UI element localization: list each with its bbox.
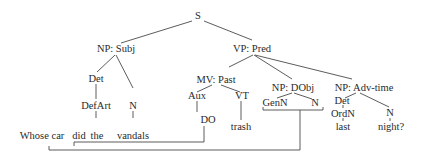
edge-vppred-npdobj (254, 55, 292, 79)
edge-npadvtime-n (360, 93, 389, 107)
word-whose-car: Whose car (20, 130, 65, 141)
syntax-tree-diagram: S NP: Subj VP: Pred Det DefArt N MV: Pas… (0, 0, 422, 156)
edge-vppred-npadvtime (255, 55, 352, 79)
node-n-adv: N (386, 107, 394, 118)
node-np-advtime: NP: Adv-time (335, 82, 394, 93)
node-genn: GenN (262, 97, 287, 108)
word-night: night? (378, 121, 405, 132)
node-do: DO (200, 114, 216, 125)
node-vt: VT (235, 90, 250, 101)
node-np-subj: NP: Subj (97, 43, 135, 54)
node-aux: Aux (188, 90, 207, 101)
word-last: last (336, 121, 351, 132)
node-det-adv: Det (334, 95, 349, 106)
node-defart: DefArt (81, 100, 111, 111)
edge-s-npsubj (121, 21, 192, 43)
node-vp-pred: VP: Pred (233, 43, 272, 54)
node-n-subj: N (129, 100, 137, 111)
edge-vppred-mvpast (229, 55, 253, 67)
node-labels: S NP: Subj VP: Pred Det DefArt N MV: Pas… (81, 10, 394, 125)
edge-npdobj-n (294, 93, 312, 99)
node-np-dobj: NP: DObj (272, 82, 314, 93)
edge-s-vppred (204, 21, 252, 40)
node-s: S (195, 10, 201, 21)
node-n-dobj: N (311, 97, 319, 108)
word-the: the (91, 130, 104, 141)
node-ordn: OrdN (331, 108, 355, 119)
tree-edges (96, 21, 390, 121)
movement-brackets (49, 107, 323, 150)
edge-npsubj-n (116, 55, 133, 88)
word-vandals: vandals (117, 130, 149, 141)
word-did: did (72, 130, 86, 141)
node-det-subj: Det (88, 73, 103, 84)
edge-npsubj-det (97, 55, 115, 72)
bracket-whose-car-to-dobj (49, 110, 300, 150)
node-mv-past: MV: Past (196, 74, 235, 85)
word-trash: trash (231, 121, 252, 132)
